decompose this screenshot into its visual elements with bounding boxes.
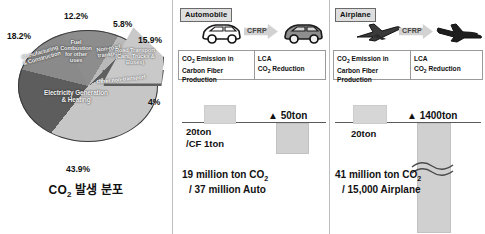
airplane-reduction-value: ▲ 1400ton [407,110,457,121]
airplane-header-emission: CO2 Emission in Carbon Fiber Production [334,51,410,79]
cfrp-label-airplane: CFRP [402,27,422,34]
car-icon-after [280,20,326,44]
airplane-vehicle-row: CFRP [331,18,485,46]
pie-chart-graphic: Fuel Combustion for other uses Non-road … [4,10,168,175]
airplane-icon-after [435,20,485,44]
airplane-header-table: CO2 Emission in Carbon Fiber Production … [333,50,483,80]
automobile-bar-emission-20ton [204,105,236,124]
cfrp-label-automobile: CFRP [247,27,267,34]
automobile-bar-reduction-50ton [276,123,309,154]
airplane-summary-note: 41 million ton CO2 / 15,000 Airplane [335,168,421,197]
automobile-header-table: CO2 Emission in Carbon Fiber Production … [178,50,326,80]
pie-percent-fuel-combustion: 12.2% [64,12,88,21]
airplane-icon-before [353,20,403,44]
automobile-vehicle-row: CFRP [176,18,328,46]
pie-percent-non-road-transport: 5.8% [113,20,132,29]
pie-chart-caption: CO2 발생 분포 [0,180,172,199]
pie-percent-electricity: 43.9% [66,165,90,174]
automobile-summary-note: 19 million ton CO2 / 37 million Auto [182,168,268,197]
pie-chart-figure: Fuel Combustion for other uses Non-road … [0,0,172,234]
pie-slice-label-road-transport: Road Transport (Cars, Trucks & Buses) [108,48,162,66]
pie-slice-label-electricity: Electricity Generation & Heating [38,90,114,103]
panel-divider-right [329,0,330,234]
airplane-panel: Airplane CFRP CO2 Emission in Carbon Fib… [331,0,485,234]
airplane-emission-value: 20ton [351,128,376,140]
pie-percent-manufacturing: 18.2% [7,32,31,41]
pie-percent-road-transport: 15.9% [138,36,162,45]
automobile-header-lca: LCA CO2 Reduction [254,51,325,79]
automobile-panel: Automobile CFRP CO2 Emission [176,0,328,234]
airplane-header-lca: LCA CO2 Reduction [410,51,482,79]
airplane-bar-emission-20ton [353,105,387,124]
automobile-header-emission: CO2 Emission in Carbon Fiber Production [179,51,254,79]
automobile-reduction-value: ▲ 50ton [268,110,307,121]
pie-percent-other-non-transport: 4% [148,98,160,107]
automobile-emission-value: 20ton /CF 1ton [186,126,224,150]
panel-divider-left [172,0,173,234]
car-icon-before [198,20,244,44]
